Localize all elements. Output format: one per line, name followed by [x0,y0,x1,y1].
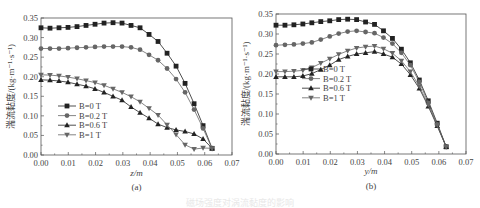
square-marker-icon [65,104,70,109]
series-b-0-t [39,20,215,150]
x-tick-label: 0.04 [377,157,393,167]
circle-marker-icon [102,44,107,49]
circle-marker-icon [399,50,404,55]
circle-marker-icon [372,31,377,36]
circle-marker-icon [201,126,206,131]
square-marker-icon [165,51,170,56]
circle-marker-icon [292,42,297,47]
circle-marker-icon [120,44,125,49]
y-tick-label: 0.20 [23,72,38,82]
series-b-0-6-t [38,77,215,150]
circle-marker-icon [300,41,305,46]
circle-marker-icon [156,58,161,63]
x-tick-label: 0.03 [350,157,365,167]
series-b-1-t [273,44,449,150]
circle-marker-icon [174,77,179,82]
x-tick-label: 0.06 [197,158,212,168]
triangle-down-marker-icon [119,90,125,95]
circle-marker-icon [111,44,116,49]
square-marker-icon [372,22,377,27]
y-tick-label: 0.15 [258,89,273,99]
legend-entry-label: B=1 T [79,130,102,140]
square-marker-icon [183,81,188,86]
figure-caption: 磁场强度对涡流黏度的影响 [0,196,480,208]
legend: B=0 TB=0.2 TB=0.6 TB=1 T [58,101,108,140]
square-marker-icon [120,21,125,26]
square-marker-icon [318,19,323,24]
circle-marker-icon [84,45,89,50]
circle-marker-icon [57,46,62,51]
square-marker-icon [274,23,279,28]
x-axis-label: z/m [129,168,143,178]
x-tick-label: 0.05 [170,158,185,168]
square-marker-icon [345,17,350,22]
x-tick-label: 0.05 [404,157,419,167]
y-axis-label: 湍流黏度/(kg·m⁻¹·s⁻¹) [240,42,251,127]
y-tick-label: 0.30 [258,29,273,39]
series-b-0-6-t [273,49,449,149]
x-tick-label: 0.04 [143,158,159,168]
circle-marker-icon [327,34,332,39]
y-tick-label: 0.35 [258,9,273,19]
legend-entry-label: B=1 T [323,93,346,103]
circle-marker-icon [390,41,395,46]
y-tick-label: 0.05 [258,129,273,139]
triangle-down-marker-icon [128,95,134,100]
square-marker-icon [327,18,332,23]
triangle-down-marker-icon [182,143,188,148]
triangle-up-marker-icon [309,71,315,76]
chart-panel-b: 0.000.010.020.030.040.050.060.070.000.05… [240,9,473,191]
series-b-0-t [274,17,449,149]
circle-marker-icon [192,107,197,112]
circle-marker-icon [408,63,413,68]
square-marker-icon [66,25,71,30]
square-marker-icon [354,17,359,22]
x-axis-label: y/m [364,166,378,176]
square-marker-icon [39,25,44,30]
circle-marker-icon [381,35,386,40]
circle-marker-icon [318,37,323,42]
figure-canvas: 0.000.010.020.030.040.050.060.070.000.05… [0,0,480,208]
y-tick-label: 0.30 [23,33,38,43]
circle-marker-icon [183,90,188,95]
x-tick-label: 0.02 [88,158,103,168]
triangle-down-marker-icon [191,147,197,152]
circle-marker-icon [66,46,71,51]
circle-marker-icon [93,45,98,50]
square-marker-icon [129,23,134,28]
triangle-down-marker-icon [327,57,333,62]
circle-marker-icon [274,43,279,48]
circle-marker-icon [48,46,53,51]
y-tick-label: 0.20 [258,69,273,79]
circle-marker-icon [65,113,70,118]
x-tick-label: 0.01 [296,157,311,167]
square-marker-icon [156,39,161,44]
square-marker-icon [111,20,116,25]
legend-entry-label: B=0.6 T [79,120,108,130]
square-marker-icon [48,26,53,31]
square-marker-icon [363,20,368,25]
square-marker-icon [174,64,179,69]
circle-marker-icon [363,30,368,35]
y-tick-label: 0.25 [23,52,38,62]
circle-marker-icon [336,31,341,36]
legend-entry-label: B=0.2 T [323,74,352,84]
plot-area-frame [276,14,466,154]
circle-marker-icon [75,45,80,50]
square-marker-icon [283,23,288,28]
y-tick-label: 0.00 [23,150,38,160]
square-marker-icon [381,28,386,33]
triangle-up-marker-icon [372,49,378,54]
circle-marker-icon [309,40,314,45]
legend-entry-label: B=0.6 T [323,83,352,93]
x-tick-label: 0.07 [459,157,474,167]
triangle-down-marker-icon [137,100,143,105]
square-marker-icon [75,24,80,29]
circle-marker-icon [345,29,350,34]
square-marker-icon [84,23,89,28]
circle-marker-icon [354,28,359,33]
triangle-down-marker-icon [336,52,342,57]
triangle-up-marker-icon [128,104,134,109]
square-marker-icon [192,101,197,106]
circle-marker-icon [309,76,314,81]
